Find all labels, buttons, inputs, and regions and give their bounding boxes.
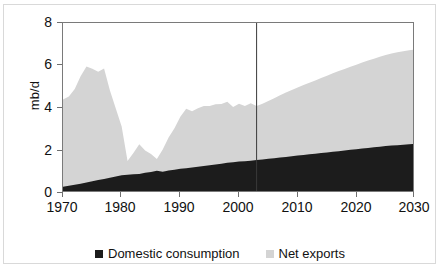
x-tick-mark-2010	[297, 192, 298, 197]
x-tick-mark-1970	[62, 192, 63, 197]
y-tick-label-8: 8	[22, 15, 52, 29]
x-tick-label-1970: 1970	[32, 200, 92, 214]
legend-label-net-exports: Net exports	[279, 246, 345, 261]
x-tick-label-1980: 1980	[90, 200, 150, 214]
x-tick-mark-2020	[356, 192, 357, 197]
chart-figure: mb/d 8 6 4 2 0 1970 1980 1990 2000 2010	[0, 0, 440, 271]
legend-swatch-domestic-consumption	[95, 250, 103, 258]
x-tick-mark-2000	[238, 192, 239, 197]
chart-svg	[63, 23, 414, 192]
x-tick-label-2010: 2010	[267, 200, 327, 214]
x-tick-mark-2030	[413, 192, 414, 197]
x-tick-label-2020: 2020	[326, 200, 386, 214]
x-tick-mark-1980	[120, 192, 121, 197]
x-tick-mark-1990	[179, 192, 180, 197]
chart-legend: Domestic consumption Net exports	[0, 246, 440, 261]
x-tick-label-2000: 2000	[208, 200, 268, 214]
y-tick-label-4: 4	[22, 100, 52, 114]
x-tick-label-1990: 1990	[149, 200, 209, 214]
y-tick-label-0: 0	[22, 185, 52, 199]
legend-item-domestic-consumption: Domestic consumption	[95, 246, 240, 261]
legend-item-net-exports: Net exports	[266, 246, 345, 261]
plot-area	[62, 22, 414, 192]
x-tick-label-2030: 2030	[384, 200, 440, 214]
y-tick-label-6: 6	[22, 57, 52, 71]
y-tick-label-2: 2	[22, 143, 52, 157]
legend-label-domestic-consumption: Domestic consumption	[108, 246, 240, 261]
legend-swatch-net-exports	[266, 250, 274, 258]
